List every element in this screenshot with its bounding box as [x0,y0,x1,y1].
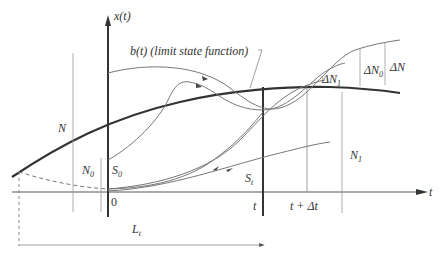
st-label: St [245,171,254,187]
sample-path-3 [108,80,325,189]
dn-label: ΔN [389,60,406,74]
t-tick-label: t [253,199,257,213]
limit-state-leader [250,50,262,88]
n-label: N [57,121,67,135]
lt-label: Lt [131,222,142,238]
x-axis [105,15,111,217]
diagram-svg: t x(t) 0 Lt t St t + Δt N1 N N0 S0 b(t) … [0,0,439,259]
sample-path-4 [108,142,330,191]
x-axis-label: x(t) [113,9,131,23]
limit-state-label: b(t) (limit state function) [130,44,248,58]
n0-label: N0 [81,163,94,179]
origin-label: 0 [111,195,117,209]
n1-label: N1 [349,148,362,164]
t-axis [12,189,428,195]
dashed-extension [19,172,108,189]
s0-label: S0 [112,163,122,179]
t-dt-label: t + Δt [290,199,318,213]
dn1-label: ΔN1 [321,72,341,88]
reliability-diagram: t x(t) 0 Lt t St t + Δt N1 N N0 S0 b(t) … [0,0,439,259]
dn0-label: ΔN0 [363,63,383,79]
t-axis-label: t [429,185,433,199]
sample-path-5 [108,112,263,189]
